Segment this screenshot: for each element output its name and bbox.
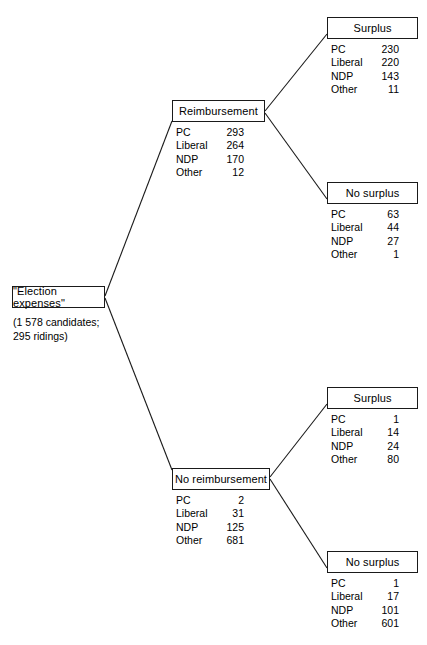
table-row: Other 601	[331, 617, 399, 630]
party-count: 230	[381, 43, 399, 56]
node-reimbursement[interactable]: Reimbursement	[172, 100, 265, 122]
party-count: 24	[387, 440, 399, 453]
party-count: 143	[381, 70, 399, 83]
table-row: Liberal 17	[331, 590, 399, 603]
node-no-surplus-upper-label: No surplus	[346, 187, 400, 199]
party-count: 31	[232, 507, 244, 520]
table-row: NDP 125	[176, 521, 244, 534]
table-row: PC 1	[331, 413, 399, 426]
root-caption: (1 578 candidates; 295 ridings)	[13, 316, 133, 343]
party-count: 44	[387, 221, 399, 234]
party-label: Other	[176, 534, 202, 547]
table-row: PC 1	[331, 577, 399, 590]
node-no-surplus-upper[interactable]: No surplus	[327, 182, 418, 204]
party-label: Liberal	[176, 139, 208, 152]
table-no-surplus-upper: PC 63 Liberal 44 NDP 27 Other 1	[331, 208, 399, 262]
connector-reimbursement-to-no-surplus	[265, 113, 327, 199]
table-row: PC 293	[176, 126, 244, 139]
table-row: NDP 27	[331, 235, 399, 248]
table-row: Liberal 14	[331, 426, 399, 439]
connector-reimbursement-to-surplus	[265, 34, 327, 111]
node-surplus-upper[interactable]: Surplus	[327, 17, 418, 39]
table-row: NDP 24	[331, 440, 399, 453]
table-row: Other 1	[331, 248, 399, 261]
table-no-surplus-lower: PC 1 Liberal 17 NDP 101 Other 601	[331, 577, 399, 631]
node-no-reimbursement[interactable]: No reimbursement	[172, 468, 270, 490]
party-label: NDP	[176, 521, 198, 534]
connector-no-reimbursement-to-surplus	[270, 404, 327, 477]
table-row: Other 12	[176, 166, 244, 179]
party-label: PC	[331, 43, 346, 56]
party-label: PC	[331, 208, 346, 221]
node-no-surplus-lower-label: No surplus	[346, 556, 400, 568]
node-no-reimbursement-label: No reimbursement	[175, 473, 267, 485]
party-label: NDP	[331, 604, 353, 617]
table-row: NDP 170	[176, 153, 244, 166]
party-label: Other	[331, 248, 357, 261]
party-count: 14	[387, 426, 399, 439]
party-count: 220	[381, 56, 399, 69]
party-label: NDP	[176, 153, 198, 166]
party-label: NDP	[331, 70, 353, 83]
table-row: Liberal 31	[176, 507, 244, 520]
table-row: Liberal 220	[331, 56, 399, 69]
party-count: 27	[387, 235, 399, 248]
party-label: Other	[331, 617, 357, 630]
party-count: 17	[387, 590, 399, 603]
party-count: 12	[232, 166, 244, 179]
table-row: Liberal 44	[331, 221, 399, 234]
table-reimbursement: PC 293 Liberal 264 NDP 170 Other 12	[176, 126, 244, 180]
party-count: 681	[226, 534, 244, 547]
party-count: 80	[387, 453, 399, 466]
party-label: Liberal	[331, 221, 363, 234]
party-count: 1	[393, 248, 399, 261]
party-label: NDP	[331, 235, 353, 248]
party-label: Liberal	[331, 590, 363, 603]
party-count: 2	[238, 494, 244, 507]
table-row: PC 63	[331, 208, 399, 221]
table-surplus-upper: PC 230 Liberal 220 NDP 143 Other 11	[331, 43, 399, 97]
table-row: Other 11	[331, 83, 399, 96]
party-label: PC	[331, 577, 346, 590]
connector-no-reimbursement-to-no-surplus	[270, 479, 327, 568]
table-row: NDP 143	[331, 70, 399, 83]
connector-root-to-reimbursement	[105, 121, 172, 296]
node-surplus-upper-label: Surplus	[354, 22, 392, 34]
party-count: 601	[381, 617, 399, 630]
election-expenses-tree-diagram: "Election expenses" (1 578 candidates; 2…	[0, 0, 427, 645]
table-row: Other 681	[176, 534, 244, 547]
node-root-election-expenses[interactable]: "Election expenses"	[12, 286, 105, 308]
table-row: Liberal 264	[176, 139, 244, 152]
party-count: 63	[387, 208, 399, 221]
party-count: 1	[393, 413, 399, 426]
table-no-reimbursement: PC 2 Liberal 31 NDP 125 Other 681	[176, 494, 244, 548]
party-count: 101	[381, 604, 399, 617]
party-label: Other	[331, 83, 357, 96]
party-count: 1	[393, 577, 399, 590]
party-count: 264	[226, 139, 244, 152]
table-row: NDP 101	[331, 604, 399, 617]
party-count: 125	[226, 521, 244, 534]
table-row: PC 2	[176, 494, 244, 507]
party-label: PC	[176, 494, 191, 507]
party-label: Liberal	[176, 507, 208, 520]
party-label: PC	[331, 413, 346, 426]
party-label: PC	[176, 126, 191, 139]
node-reimbursement-label: Reimbursement	[179, 105, 258, 117]
node-surplus-lower[interactable]: Surplus	[327, 387, 418, 409]
party-label: Other	[176, 166, 202, 179]
party-count: 293	[226, 126, 244, 139]
table-row: PC 230	[331, 43, 399, 56]
party-label: Liberal	[331, 56, 363, 69]
party-label: Liberal	[331, 426, 363, 439]
party-label: Other	[331, 453, 357, 466]
table-surplus-lower: PC 1 Liberal 14 NDP 24 Other 80	[331, 413, 399, 467]
node-root-label: "Election expenses"	[13, 285, 104, 309]
party-label: NDP	[331, 440, 353, 453]
party-count: 11	[388, 83, 399, 96]
table-row: Other 80	[331, 453, 399, 466]
party-count: 170	[226, 153, 244, 166]
node-no-surplus-lower[interactable]: No surplus	[327, 551, 418, 573]
node-surplus-lower-label: Surplus	[354, 392, 392, 404]
